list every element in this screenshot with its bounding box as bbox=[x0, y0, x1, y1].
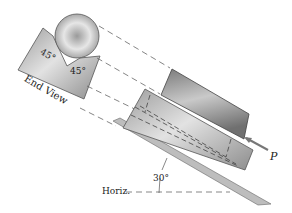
incline-angle-label: 30° bbox=[153, 173, 169, 183]
angle-label-right: 45° bbox=[70, 66, 86, 76]
inclined-v-block-diagram bbox=[0, 0, 292, 213]
force-label: P bbox=[270, 150, 277, 163]
end-view-cylinder bbox=[55, 14, 99, 58]
horizontal-label: Horiz. bbox=[102, 186, 130, 196]
